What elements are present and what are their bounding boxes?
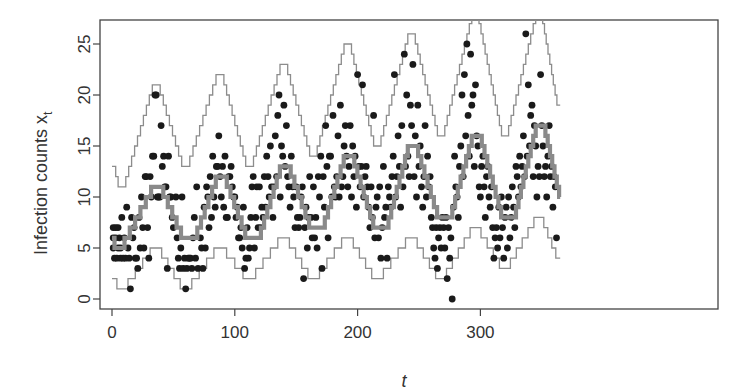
data-point [278, 143, 285, 150]
data-point [224, 214, 231, 221]
data-point [359, 81, 366, 88]
data-point [397, 204, 404, 211]
data-point [251, 245, 258, 252]
data-point [314, 245, 321, 252]
data-point [337, 102, 344, 109]
data-point [530, 173, 537, 180]
data-point [134, 265, 141, 272]
y-axis-title-text: Infection counts x [31, 115, 51, 255]
data-point [188, 265, 195, 272]
data-point [220, 204, 227, 211]
data-point [306, 173, 313, 180]
data-point [118, 214, 125, 221]
y-tick-label: 5 [75, 243, 94, 252]
data-point [304, 245, 311, 252]
data-point [468, 102, 475, 109]
observed-points [110, 30, 560, 302]
data-point [494, 245, 501, 252]
data-point [173, 194, 180, 201]
data-point [465, 112, 472, 119]
data-point [208, 214, 215, 221]
data-point [467, 51, 474, 58]
data-point [312, 214, 319, 221]
data-point [434, 265, 441, 272]
data-point [327, 153, 334, 160]
data-point [451, 153, 458, 160]
data-point [368, 183, 375, 190]
data-point [203, 183, 210, 190]
data-point [478, 163, 485, 170]
data-point [422, 122, 429, 129]
data-point [493, 224, 500, 231]
data-point [378, 255, 385, 262]
data-point [522, 30, 529, 37]
data-point [265, 173, 272, 180]
data-point [514, 173, 521, 180]
data-point [398, 122, 405, 129]
data-point [391, 71, 398, 78]
data-point [123, 204, 130, 211]
data-point [516, 153, 523, 160]
data-point [145, 255, 152, 262]
data-point [283, 122, 290, 129]
y-tick-label: 15 [75, 137, 94, 156]
data-point [529, 102, 536, 109]
data-point [267, 143, 274, 150]
data-point [335, 132, 342, 139]
y-tick-label: 20 [75, 86, 94, 105]
data-point [263, 153, 270, 160]
data-point [218, 194, 225, 201]
chart: 0510152025 0100200300 Infection counts x… [0, 0, 749, 392]
data-point [449, 296, 456, 303]
data-point [297, 214, 304, 221]
data-point [457, 143, 464, 150]
data-point [177, 245, 184, 252]
data-point [354, 71, 361, 78]
data-point [219, 163, 226, 170]
x-tick-label: 100 [221, 323, 249, 342]
data-point [272, 132, 279, 139]
data-point [462, 132, 469, 139]
data-point [446, 255, 453, 262]
data-point [472, 81, 479, 88]
data-point [477, 194, 484, 201]
data-point [374, 194, 381, 201]
data-point [419, 204, 426, 211]
data-point [376, 183, 383, 190]
data-point [270, 214, 277, 221]
data-point [320, 173, 327, 180]
data-point [317, 153, 324, 160]
data-point [256, 183, 263, 190]
data-point [491, 255, 498, 262]
data-point [277, 194, 284, 201]
data-point [322, 122, 329, 129]
data-point [276, 92, 283, 99]
data-point [535, 163, 542, 170]
data-point [464, 41, 471, 48]
data-point [245, 255, 252, 262]
data-point [141, 245, 148, 252]
data-point [424, 153, 431, 160]
x-axis-title: t [401, 371, 407, 391]
data-point [413, 194, 420, 201]
data-point [316, 194, 323, 201]
data-point [410, 61, 417, 68]
data-point [412, 132, 419, 139]
data-point [503, 204, 510, 211]
data-point [281, 102, 288, 109]
data-point [513, 163, 520, 170]
x-tick-label: 0 [107, 323, 116, 342]
data-point [300, 275, 307, 282]
data-point [179, 194, 186, 201]
data-point [240, 204, 247, 211]
data-point [500, 255, 507, 262]
data-point [336, 194, 343, 201]
data-point [250, 173, 257, 180]
data-point [407, 102, 414, 109]
data-point [520, 132, 527, 139]
data-point [542, 163, 549, 170]
y-axis-title: Infection counts xt [31, 111, 55, 255]
upper-band-path [112, 13, 560, 186]
data-point [511, 224, 518, 231]
data-point [353, 204, 360, 211]
